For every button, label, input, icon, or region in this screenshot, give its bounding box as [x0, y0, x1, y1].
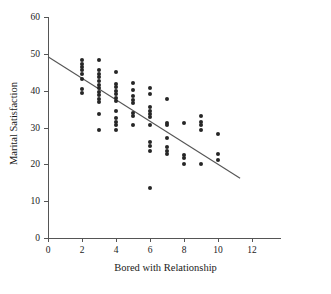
data-point — [199, 162, 203, 166]
x-axis-label: Bored with Relationship — [0, 262, 331, 273]
x-tick — [150, 238, 151, 242]
data-points-group — [48, 17, 273, 238]
data-point — [80, 91, 84, 95]
x-tick-label: 0 — [37, 245, 59, 255]
x-tick — [82, 238, 83, 242]
data-point — [182, 156, 186, 160]
data-point — [165, 123, 169, 127]
x-tick — [184, 238, 185, 242]
y-tick-label: 30 — [18, 123, 40, 133]
x-tick-label: 8 — [173, 245, 195, 255]
data-point — [199, 123, 203, 127]
data-point — [131, 88, 135, 92]
x-tick-label: 6 — [139, 245, 161, 255]
x-tick — [252, 238, 253, 242]
data-point — [165, 97, 169, 101]
y-tick-label: 50 — [18, 49, 40, 59]
data-point — [131, 101, 135, 105]
data-point — [114, 109, 118, 113]
data-point — [148, 186, 152, 190]
data-point — [114, 123, 118, 127]
data-point — [97, 112, 101, 116]
x-tick-label: 10 — [207, 245, 229, 255]
data-point — [216, 152, 220, 156]
data-point — [131, 81, 135, 85]
y-tick-label: 40 — [18, 86, 40, 96]
data-point — [148, 115, 152, 119]
data-point — [148, 86, 152, 90]
data-point — [148, 149, 152, 153]
data-point — [165, 136, 169, 140]
x-tick — [116, 238, 117, 242]
data-point — [97, 58, 101, 62]
x-tick — [48, 238, 49, 242]
x-tick-label: 2 — [71, 245, 93, 255]
data-point — [148, 123, 152, 127]
y-axis-label: Marital Satisfaction — [8, 29, 19, 219]
data-point — [148, 144, 152, 148]
data-point — [114, 99, 118, 103]
data-point — [216, 132, 220, 136]
data-point — [182, 162, 186, 166]
y-tick-label: 0 — [18, 233, 40, 243]
x-tick-label: 4 — [105, 245, 127, 255]
data-point — [216, 158, 220, 162]
data-point — [165, 152, 169, 156]
data-point — [131, 114, 135, 118]
data-point — [148, 92, 152, 96]
data-point — [114, 70, 118, 74]
data-point — [80, 72, 84, 76]
x-tick-label: 12 — [241, 245, 263, 255]
data-point — [80, 77, 84, 81]
data-point — [97, 100, 101, 104]
y-tick-label: 60 — [18, 12, 40, 22]
data-point — [114, 128, 118, 132]
scatter-plot-figure: 0102030405060 024681012 Bored with Relat… — [0, 0, 331, 294]
y-tick-label: 10 — [18, 196, 40, 206]
data-point — [97, 128, 101, 132]
data-point — [131, 123, 135, 127]
data-point — [199, 114, 203, 118]
data-point — [182, 121, 186, 125]
plot-area: 0102030405060 024681012 — [48, 17, 273, 238]
data-point — [199, 128, 203, 132]
x-tick — [218, 238, 219, 242]
y-tick-label: 20 — [18, 159, 40, 169]
